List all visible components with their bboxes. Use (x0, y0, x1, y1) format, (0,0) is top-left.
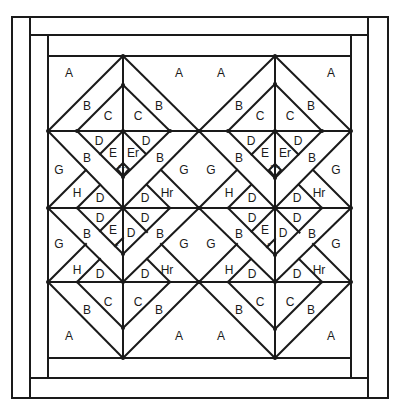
vertex-dot (226, 129, 230, 133)
piece-label-f-fr: F Fr (118, 164, 127, 170)
piece-label-b: B (307, 99, 315, 113)
vertex-dot (197, 129, 201, 133)
piece-label-e: E (109, 146, 117, 160)
vertex-dot (75, 129, 79, 133)
piece-label-d: D (248, 211, 257, 225)
piece-label-b: B (156, 227, 164, 241)
piece-label-b: B (83, 151, 91, 165)
piece-label-b: B (307, 303, 315, 317)
vertex-dot (46, 206, 50, 210)
piece-label-a: A (327, 329, 335, 343)
piece-label-c: C (256, 109, 265, 123)
piece-label-d: D (247, 134, 256, 148)
piece-label-d: D (141, 211, 150, 225)
vertex-dot (273, 82, 277, 86)
piece-label-c: C (134, 109, 143, 123)
piece-label-g: G (331, 237, 340, 251)
piece-label-g: G (54, 237, 63, 251)
vertex-dot (121, 356, 125, 360)
piece-label-d: D (294, 134, 303, 148)
tree-quilt-diagram: AABBCCDDEErF FrBBGGHDDHrDDEFDBBGGHDDHrCC… (0, 0, 401, 411)
piece-label-d: D (248, 191, 257, 205)
piece-label-c: C (256, 295, 265, 309)
seam-line (275, 282, 351, 358)
piece-label-b: B (83, 227, 91, 241)
piece-label-b: B (155, 303, 163, 317)
piece-label-hr: Hr (313, 263, 326, 277)
piece-label-e: E (261, 146, 269, 160)
piece-label-a: A (175, 66, 183, 80)
piece-label-hr: Hr (161, 186, 174, 200)
piece-label-b: B (83, 303, 91, 317)
vertex-dot (273, 176, 277, 180)
piece-label-b: B (235, 303, 243, 317)
vertex-dot (121, 206, 125, 210)
piece-label-d: D (141, 267, 150, 281)
piece-label-g: G (179, 237, 188, 251)
piece-label-c: C (134, 295, 143, 309)
piece-label-er: Er (279, 146, 291, 160)
piece-label-er: Er (127, 146, 139, 160)
piece-label-d: D (127, 226, 136, 240)
piece-label-a: A (65, 329, 73, 343)
piece-label-a: A (65, 66, 73, 80)
vertex-dot (349, 129, 353, 133)
piece-label-c: C (286, 295, 295, 309)
piece-label-d: D (248, 267, 257, 281)
piece-label-b: B (156, 151, 164, 165)
vertex-dot (273, 280, 277, 284)
vertex-dot (273, 253, 277, 257)
piece-label-g: G (54, 163, 63, 177)
vertex-dot (46, 280, 50, 284)
piece-label-d: D (96, 191, 105, 205)
piece-label-d: D (141, 191, 150, 205)
seam-line (48, 282, 123, 358)
piece-label-c: C (104, 295, 113, 309)
piece-label-g: G (179, 163, 188, 177)
vertex-dot (349, 206, 353, 210)
piece-label-e: E (109, 223, 117, 237)
piece-label-b: B (83, 99, 91, 113)
piece-label-h: H (73, 186, 82, 200)
piece-label-d: D (293, 191, 302, 205)
vertex-dot (320, 129, 324, 133)
vertex-dot (349, 280, 353, 284)
vertex-dot (197, 280, 201, 284)
vertex-dot (273, 327, 277, 331)
piece-label-g: G (331, 163, 340, 177)
vertex-dot (168, 129, 172, 133)
quilt-blocks: AABBCCDDEErF FrBBGGHDDHrDDEFDBBGGHDDHrCC… (46, 54, 353, 360)
piece-label-hr: Hr (313, 186, 326, 200)
vertex-dot (273, 54, 277, 58)
piece-label-g: G (206, 237, 215, 251)
piece-label-a: A (175, 329, 183, 343)
piece-label-f-fr: F Fr (270, 164, 279, 170)
seam-line (199, 282, 275, 358)
vertex-dot (46, 129, 50, 133)
vertex-dot (273, 356, 277, 360)
piece-label-h: H (73, 263, 82, 277)
piece-label-b: B (308, 151, 316, 165)
piece-label-d: D (142, 134, 151, 148)
piece-label-h: H (225, 263, 234, 277)
seam-line (123, 282, 199, 358)
vertex-dot (273, 206, 277, 210)
piece-label-g: G (206, 163, 215, 177)
piece-label-hr: Hr (161, 263, 174, 277)
vertex-dot (121, 54, 125, 58)
piece-label-d: D (96, 267, 105, 281)
vertex-dot (121, 326, 125, 330)
piece-label-b: B (235, 99, 243, 113)
vertex-dot (273, 129, 277, 133)
piece-label-d: D (96, 211, 105, 225)
piece-label-b: B (308, 227, 316, 241)
piece-label-b: B (235, 227, 243, 241)
piece-label-a: A (327, 66, 335, 80)
piece-label-e: E (261, 223, 269, 237)
piece-label-h: H (225, 186, 234, 200)
piece-label-d: D (293, 211, 302, 225)
vertex-dot (121, 83, 125, 87)
vertex-dot (121, 280, 125, 284)
vertex-dot (197, 206, 201, 210)
right-tree-block: AABBCCDDEErF FrBBGGHDDHrDDEFDBBGGHDDHrCC… (197, 54, 353, 360)
